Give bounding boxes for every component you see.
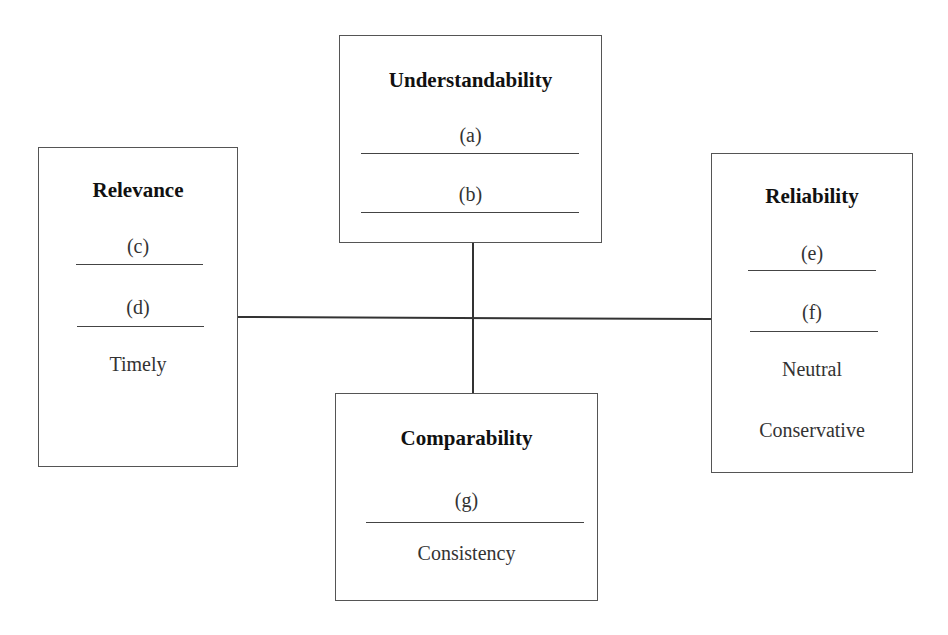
reliability-item-f: (f): [712, 301, 912, 324]
understandability-title: Understandability: [340, 68, 601, 93]
relevance-box: Relevance (c) (d) Timely: [38, 147, 238, 467]
relevance-item-c: (c): [39, 235, 237, 258]
reliability-item-e: (e): [712, 242, 912, 265]
comparability-rule-g: [366, 522, 584, 523]
reliability-rule-e: [748, 270, 876, 271]
relevance-rule-c: [76, 264, 203, 265]
understandability-box: Understandability (a) (b): [339, 35, 602, 243]
understandability-rule-a: [361, 153, 579, 154]
understandability-item-a: (a): [340, 124, 601, 147]
reliability-rule-f: [750, 331, 878, 332]
relevance-title: Relevance: [39, 178, 237, 203]
comparability-title: Comparability: [336, 426, 597, 451]
connector-horizontal: [237, 316, 711, 319]
understandability-item-b: (b): [340, 183, 601, 206]
comparability-box: Comparability (g) Consistency: [335, 393, 598, 601]
relevance-item-timely: Timely: [39, 353, 237, 376]
relevance-item-d: (d): [39, 296, 237, 319]
understandability-rule-b: [361, 212, 579, 213]
relevance-rule-d: [77, 326, 204, 327]
reliability-box: Reliability (e) (f) Neutral Conservative: [711, 153, 913, 473]
comparability-item-g: (g): [336, 489, 597, 512]
reliability-item-neutral: Neutral: [712, 358, 912, 381]
reliability-item-conservative: Conservative: [712, 419, 912, 442]
reliability-title: Reliability: [712, 184, 912, 209]
comparability-item-consistency: Consistency: [336, 542, 597, 565]
